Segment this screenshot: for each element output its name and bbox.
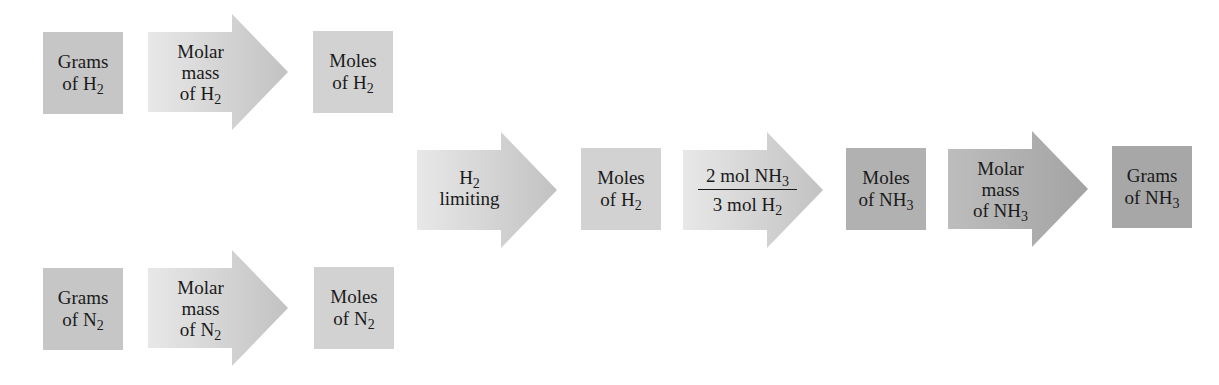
molar-mass-h2-line1: Molar [177,41,223,62]
molar-mass-nh3-line3: of NH [973,200,1021,221]
moles-h2-main-box: Moles of H2 [581,148,661,230]
h2-limiting-arrow: H2 limiting [417,132,566,248]
molar-mass-n2-arrow: Molar mass of N2 [148,250,297,366]
molar-mass-n2-sub: 2 [214,328,221,343]
moles-h2-sub: 2 [367,81,374,96]
limiting-line2: limiting [439,188,499,209]
mole-ratio-num-sub: 3 [782,174,789,189]
grams-h2-sub: 2 [97,82,104,97]
grams-nh3-sub: 3 [1173,196,1180,211]
grams-nh3-line1: Grams [1127,165,1178,186]
mole-ratio-arrow: 2 mol NH3 3 mol H2 [683,132,832,248]
molar-mass-n2-line2: mass [182,298,220,319]
mole-ratio-fraction: 2 mol NH3 3 mol H2 [704,165,791,216]
molar-mass-n2-line3: of N [180,319,214,340]
grams-nh3-box: Grams of NH3 [1112,146,1192,228]
grams-h2-box: Grams of H2 [43,32,123,114]
moles-n2-box: Moles of N2 [314,267,394,349]
grams-h2-line1: Grams [58,51,109,72]
moles-n2-line1: Moles [330,286,378,307]
moles-n2-sub: 2 [368,317,375,332]
moles-nh3-line2: of NH [858,189,906,210]
molar-mass-nh3-line1: Molar [977,158,1023,179]
molar-mass-h2-arrow: Molar mass of H2 [148,14,297,130]
molar-mass-h2-line2: mass [182,62,220,83]
molar-mass-nh3-arrow: Molar mass of NH3 [948,131,1097,247]
molar-mass-nh3-line2: mass [982,179,1020,200]
grams-n2-line1: Grams [58,287,109,308]
moles-nh3-box: Moles of NH3 [846,148,926,230]
mole-ratio-den-sub: 2 [775,203,782,218]
grams-h2-line2: of H [62,73,96,94]
moles-h2-box: Moles of H2 [313,31,393,113]
limiting-line1: H [459,167,473,188]
grams-n2-sub: 2 [97,318,104,333]
molar-mass-h2-sub: 2 [214,92,221,107]
moles-h2-line1: Moles [329,50,377,71]
moles-h2-main-line2: of H [600,189,634,210]
molar-mass-nh3-sub: 3 [1021,209,1028,224]
grams-nh3-line2: of NH [1124,187,1172,208]
mole-ratio-denominator: 3 mol H [713,194,775,215]
mole-ratio-numerator: 2 mol NH [706,165,782,186]
moles-nh3-sub: 3 [907,198,914,213]
moles-h2-main-sub: 2 [635,198,642,213]
moles-h2-line2: of H [332,72,366,93]
moles-nh3-line1: Moles [862,167,910,188]
moles-h2-main-line1: Moles [597,167,645,188]
grams-n2-box: Grams of N2 [43,268,123,350]
molar-mass-h2-line3: of H [180,83,214,104]
molar-mass-n2-line1: Molar [177,277,223,298]
grams-n2-line2: of N [62,309,96,330]
moles-n2-line2: of N [333,308,367,329]
